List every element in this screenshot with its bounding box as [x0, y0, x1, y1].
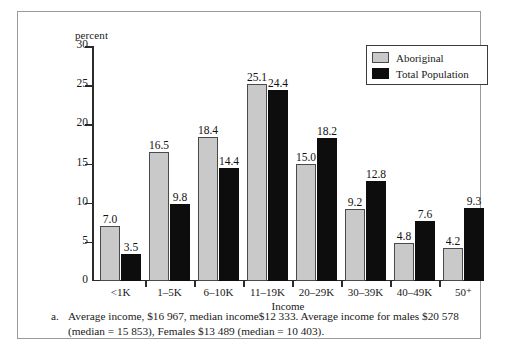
bar[interactable]: 18.2 [317, 138, 337, 281]
bar-value-label: 4.2 [446, 235, 460, 247]
bar-value-label: 16.5 [149, 139, 169, 151]
bar-group: 25.124.4 [247, 46, 288, 281]
footnote: a. Average income, $16 967, median incom… [51, 309, 481, 338]
legend-item[interactable]: Aboriginal [372, 50, 482, 65]
bar[interactable]: 7.0 [100, 226, 120, 281]
x-tick-label: <1K [111, 286, 131, 298]
y-axis-line [92, 46, 94, 281]
bar[interactable]: 3.5 [121, 254, 141, 281]
x-tick-label: 30–39K [348, 286, 383, 298]
bar-group: 15.018.2 [296, 46, 337, 281]
bar-value-label: 24.4 [268, 77, 288, 89]
figure-frame: percent 051015202530 7.03.516.59.818.414… [17, 11, 481, 339]
bar-value-label: 7.0 [103, 213, 117, 225]
chart-legend: AboriginalTotal Population [366, 45, 488, 85]
legend-label: Total Population [396, 68, 469, 80]
bar-value-label: 25.1 [247, 71, 267, 83]
bar-group: 16.59.8 [149, 46, 190, 281]
x-tick-label: 50⁺ [455, 286, 472, 299]
x-tick-mark [194, 281, 196, 287]
x-tick-mark [243, 281, 245, 287]
legend-swatch-icon [372, 68, 389, 79]
bar-value-label: 9.8 [173, 191, 187, 203]
bar-group: 7.03.5 [100, 46, 141, 281]
x-tick-label: 1–5K [157, 286, 181, 298]
bar[interactable]: 24.4 [268, 90, 288, 281]
x-tick-mark [439, 281, 441, 287]
bar[interactable]: 14.4 [219, 168, 239, 281]
bar[interactable]: 18.4 [198, 137, 218, 281]
y-tick-label: 10 [77, 195, 89, 207]
bar-value-label: 9.2 [348, 196, 362, 208]
x-tick-label: 40–49K [397, 286, 432, 298]
bar-value-label: 7.6 [418, 208, 432, 220]
bar[interactable]: 9.3 [464, 208, 484, 281]
bar-value-label: 14.4 [219, 155, 239, 167]
bar-value-label: 3.5 [124, 241, 138, 253]
bar[interactable]: 4.8 [394, 243, 414, 281]
y-tick-label: 30 [77, 38, 89, 50]
bar-group: 18.414.4 [198, 46, 239, 281]
x-tick-label: 6–10K [204, 286, 234, 298]
y-tick-label: 0 [82, 273, 88, 285]
y-tick-label: 5 [82, 234, 88, 246]
x-tick-mark [292, 281, 294, 287]
x-tick-mark [341, 281, 343, 287]
x-tick-label: 11–19K [250, 286, 285, 298]
bar[interactable]: 25.1 [247, 84, 267, 281]
x-tick-label: 20–29K [299, 286, 334, 298]
x-tick-mark [145, 281, 147, 287]
x-tick-mark [390, 281, 392, 287]
legend-item[interactable]: Total Population [372, 66, 482, 81]
legend-swatch-icon [372, 52, 389, 63]
y-tick-label: 20 [77, 116, 89, 128]
bar-value-label: 4.8 [397, 230, 411, 242]
bar-value-label: 18.2 [317, 125, 337, 137]
footnote-text: Average income, $16 967, median income$1… [68, 309, 481, 338]
bar-value-label: 12.8 [366, 168, 386, 180]
bar[interactable]: 16.5 [149, 152, 169, 281]
bar-value-label: 9.3 [467, 195, 481, 207]
footnote-marker: a. [51, 309, 59, 324]
y-tick-label: 25 [77, 77, 89, 89]
legend-label: Aboriginal [396, 52, 444, 64]
bar[interactable]: 12.8 [366, 181, 386, 281]
bar[interactable]: 9.8 [170, 204, 190, 281]
y-tick-label: 15 [77, 156, 89, 168]
bar-value-label: 15.0 [296, 151, 316, 163]
bar[interactable]: 9.2 [345, 209, 365, 281]
bar-value-label: 18.4 [198, 124, 218, 136]
bar[interactable]: 7.6 [415, 221, 435, 281]
bar[interactable]: 15.0 [296, 164, 316, 282]
bar[interactable]: 4.2 [443, 248, 463, 281]
